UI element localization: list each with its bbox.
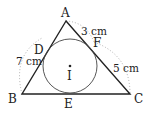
incenter-dot (69, 65, 72, 68)
label-i: I (67, 69, 72, 83)
measure-fc: 5 cm (113, 62, 139, 74)
incircle-diagram: A B C D E F I 7 cm 3 cm 5 cm (0, 0, 152, 116)
label-e: E (64, 97, 73, 111)
label-f: F (93, 36, 101, 50)
measure-bd: 7 cm (16, 55, 42, 67)
label-a: A (60, 6, 70, 20)
measure-af: 3 cm (81, 25, 107, 37)
label-c: C (134, 92, 143, 106)
label-b: B (8, 92, 17, 106)
